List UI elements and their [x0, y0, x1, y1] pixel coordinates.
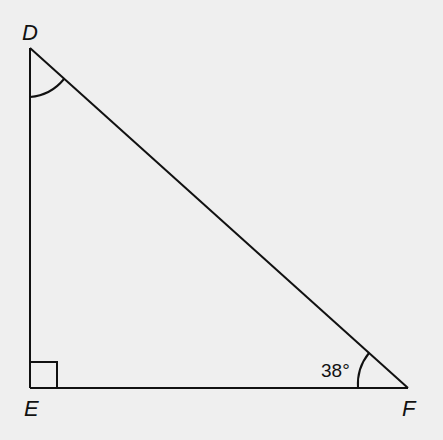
angle-d-arc	[30, 79, 64, 97]
triangle-diagram: D E F 38°	[0, 0, 443, 440]
right-angle-marker	[30, 362, 57, 388]
triangle-def	[30, 48, 408, 388]
angle-f-label: 38°	[321, 360, 350, 381]
side-df	[30, 48, 408, 388]
angle-f-arc	[358, 353, 369, 388]
vertex-label-f: F	[402, 396, 417, 421]
vertex-label-e: E	[24, 396, 39, 421]
vertex-label-d: D	[22, 20, 38, 45]
